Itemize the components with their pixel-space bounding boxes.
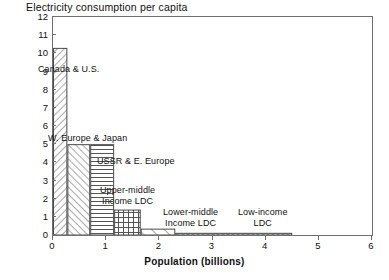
- y-tick-mark: [52, 180, 56, 181]
- x-tick-mark: [105, 236, 106, 240]
- y-tick-label: 4: [43, 156, 48, 167]
- x-tick-label: 6: [368, 240, 373, 251]
- y-tick-label: 11: [38, 29, 48, 40]
- bar-4: [141, 229, 175, 235]
- y-tick-label: 7: [43, 101, 48, 112]
- y-tick-label: 1: [43, 210, 48, 221]
- y-tick-mark: [52, 52, 56, 53]
- y-tick-label: 6: [43, 120, 48, 131]
- chart-container: Electricity consumption per capita: [0, 0, 389, 280]
- y-tick-label: 12: [37, 11, 48, 22]
- x-axis-tick-labels: 0123456: [52, 240, 373, 254]
- y-tick-mark: [52, 234, 56, 235]
- x-axis-title: Population (billions): [0, 256, 389, 267]
- x-tick-mark: [318, 236, 319, 240]
- x-tick-mark: [265, 236, 266, 240]
- y-tick-mark: [52, 216, 56, 217]
- y-tick-mark: [52, 161, 56, 162]
- series-annotation-5: Low-income LDC: [238, 207, 288, 228]
- chart-title: Electricity consumption per capita: [26, 1, 188, 13]
- y-tick-mark: [52, 16, 56, 17]
- y-tick-label: 0: [43, 229, 48, 240]
- x-tick-label: 1: [103, 240, 108, 251]
- series-annotation-2: USSR & E. Europe: [97, 156, 175, 167]
- x-tick-label: 5: [315, 240, 320, 251]
- x-tick-mark: [371, 236, 372, 240]
- series-annotation-4: Lower-middle Income LDC: [163, 207, 218, 228]
- y-tick-label: 3: [43, 174, 48, 185]
- y-tick-mark: [52, 198, 56, 199]
- y-tick-label: 8: [43, 83, 48, 94]
- y-tick-label: 2: [43, 192, 48, 203]
- series-annotation-3: Upper-middle Income LDC: [100, 185, 155, 206]
- y-tick-mark: [52, 89, 56, 90]
- y-tick-mark: [52, 107, 56, 108]
- x-tick-mark: [158, 236, 159, 240]
- bar-1: [68, 145, 90, 235]
- x-tick-mark: [212, 236, 213, 240]
- bar-3: [115, 210, 141, 235]
- x-tick-label: 0: [49, 240, 54, 251]
- bar-5: [176, 233, 292, 235]
- y-axis-tick-labels: 0123456789101112: [22, 16, 48, 236]
- x-tick-mark: [52, 236, 53, 240]
- y-tick-mark: [52, 34, 56, 35]
- series-annotation-1: W. Europe & Japan: [48, 133, 127, 144]
- x-tick-label: 4: [262, 240, 267, 251]
- x-tick-label: 2: [156, 240, 161, 251]
- y-tick-mark: [52, 125, 56, 126]
- series-annotation-0: Canada & U.S.: [38, 64, 99, 75]
- x-tick-label: 3: [209, 240, 214, 251]
- y-tick-label: 10: [37, 47, 48, 58]
